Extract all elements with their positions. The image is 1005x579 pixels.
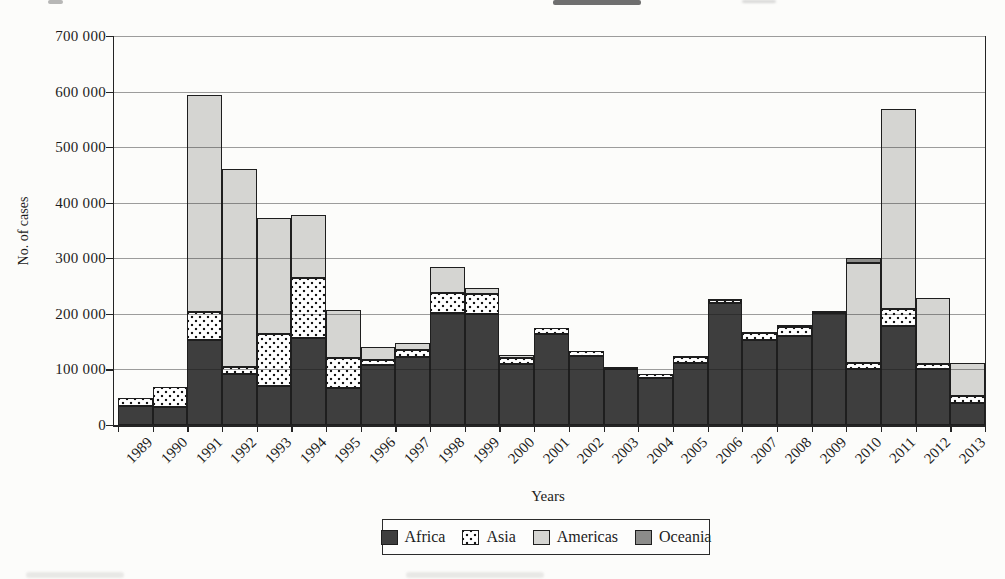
y-tick-label: 600 000 (34, 83, 106, 101)
x-tick (430, 426, 431, 432)
x-tick-label-2001: 2001 (539, 434, 572, 467)
bar-segment-africa-2006 (708, 303, 743, 425)
gridline-200000 (114, 314, 985, 315)
x-axis-line (113, 425, 986, 427)
x-tick (291, 426, 292, 432)
bar-segment-asia-2012 (916, 364, 951, 369)
y-tick-label: 100 000 (34, 360, 106, 378)
y-tick-label: 400 000 (34, 194, 106, 212)
bar-segment-asia-1996 (361, 360, 396, 365)
x-tick-label-1994: 1994 (297, 434, 330, 467)
bar-segment-americas-1997 (395, 343, 430, 350)
bar-segment-americas-1993 (257, 218, 292, 334)
bar-segment-asia-2011 (881, 309, 916, 326)
y-tick-label: 500 000 (34, 138, 106, 156)
y-tick (106, 314, 114, 315)
bar-segment-africa-1994 (291, 338, 326, 425)
y-tick-label: 700 000 (34, 27, 106, 45)
x-tick (950, 426, 951, 432)
x-tick-label-1992: 1992 (227, 434, 260, 467)
legend: AfricaAsiaAmericasOceania (382, 519, 710, 555)
bar-segment-asia-2010 (846, 363, 881, 369)
x-tick (846, 426, 847, 432)
bar-segment-americas-1996 (361, 347, 396, 360)
bar-segment-asia-2004 (638, 374, 673, 377)
x-tick (257, 426, 258, 432)
y-tick (106, 147, 114, 148)
chart-figure: No. of cases Years 0100 000200 000300 00… (0, 0, 1005, 579)
x-tick-label-2010: 2010 (851, 434, 884, 467)
scan-artifact (26, 572, 124, 578)
bar-segment-americas-2006 (708, 299, 743, 301)
bar-segment-asia-1994 (291, 278, 326, 338)
y-tick (106, 92, 114, 93)
bar-segment-africa-1989 (118, 406, 153, 425)
bar-segment-africa-1995 (326, 388, 361, 425)
bar-segment-africa-1990 (153, 407, 188, 425)
gridline-300000 (114, 258, 985, 259)
x-tick (985, 426, 986, 432)
y-tick (106, 369, 114, 370)
x-tick-label-1997: 1997 (401, 434, 434, 467)
bar-segment-americas-2012 (916, 298, 951, 364)
x-tick (534, 426, 535, 432)
x-tick (465, 426, 466, 432)
x-tick (881, 426, 882, 432)
bar-segment-americas-2000 (499, 355, 534, 358)
bar-segment-americas-2005 (673, 356, 708, 358)
bar-segment-africa-1993 (257, 386, 292, 425)
y-tick-label: 300 000 (34, 249, 106, 267)
bar-segment-africa-1992 (222, 374, 257, 425)
scan-artifact (553, 0, 641, 5)
bar-segment-africa-2000 (499, 364, 534, 425)
x-tick (916, 426, 917, 432)
x-tick-label-2000: 2000 (505, 434, 538, 467)
bar-segment-americas-1998 (430, 267, 465, 293)
bar-segment-asia-1989 (118, 398, 153, 405)
x-tick-label-2003: 2003 (609, 434, 642, 467)
x-tick-label-2011: 2011 (886, 434, 919, 467)
x-tick (118, 426, 119, 432)
bar-segment-africa-1997 (395, 357, 430, 425)
x-tick (742, 426, 743, 432)
legend-item-asia: Asia (462, 528, 515, 546)
legend-item-africa: Africa (381, 528, 446, 546)
legend-label-africa: Africa (405, 528, 446, 546)
y-tick-label: 200 000 (34, 305, 106, 323)
x-tick (638, 426, 639, 432)
bar-segment-africa-2007 (742, 340, 777, 425)
scan-artifact (742, 0, 776, 3)
bar-segment-asia-1998 (430, 293, 465, 313)
bar-segment-americas-1999 (465, 288, 500, 294)
x-tick-label-2002: 2002 (574, 434, 607, 467)
gridline-700000 (114, 36, 985, 37)
bar-segment-americas-2007 (742, 332, 777, 334)
x-tick-label-2007: 2007 (747, 434, 780, 467)
bar-segment-asia-2005 (673, 357, 708, 363)
gridline-100000 (114, 369, 985, 370)
bar-segment-americas-1991 (187, 95, 222, 312)
legend-item-americas: Americas (533, 528, 618, 546)
right-border-line (985, 36, 986, 425)
y-tick (106, 36, 114, 37)
x-axis-title: Years (488, 488, 608, 505)
legend-label-americas: Americas (557, 528, 618, 546)
bar-segment-africa-2010 (846, 369, 881, 425)
scan-artifact (48, 0, 63, 4)
legend-swatch-americas (533, 530, 550, 545)
x-tick-label-2009: 2009 (817, 434, 850, 467)
legend-swatch-africa (381, 530, 398, 545)
bar-segment-asia-2013 (950, 396, 985, 403)
x-tick-label-1995: 1995 (331, 434, 364, 467)
x-tick (361, 426, 362, 432)
y-axis-line (113, 36, 114, 425)
bar-segment-africa-1991 (187, 340, 222, 425)
x-tick (187, 426, 188, 432)
x-tick (777, 426, 778, 432)
legend-item-oceania: Oceania (635, 528, 711, 546)
bar-segment-asia-1990 (153, 387, 188, 406)
bar-segment-americas-1994 (291, 215, 326, 277)
legend-label-oceania: Oceania (659, 528, 711, 546)
bar-segment-asia-2002 (569, 351, 604, 357)
bar-segment-africa-2008 (777, 336, 812, 425)
